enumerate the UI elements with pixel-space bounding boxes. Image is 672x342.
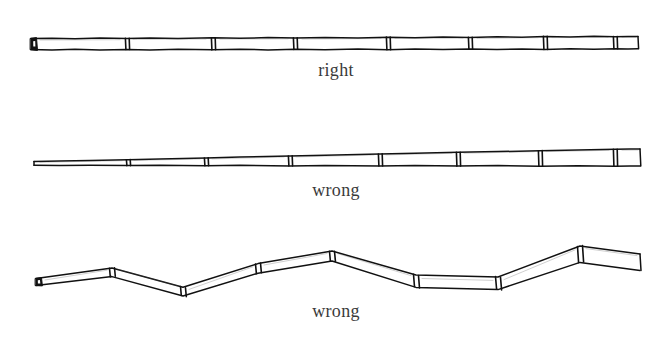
bamboo-pole-figure: right wrong wrong: [0, 0, 672, 342]
pole2-right-end: [640, 149, 641, 166]
caption-wrong-tapered: wrong: [0, 180, 672, 200]
pole2-top-edge: [34, 149, 640, 162]
bamboo-illustration-svg: [0, 0, 672, 342]
pole3-end-cap-inner: [38, 280, 41, 284]
caption-wrong-crooked: wrong: [0, 301, 672, 321]
pole-straight-tapered-drawing: [34, 149, 641, 166]
pole-crooked-drawing: [36, 246, 642, 297]
pole1-right-end: [638, 37, 639, 49]
pole2-bottom-edge: [34, 165, 640, 166]
caption-right: right: [0, 60, 672, 80]
pole-straight-uniform-drawing: [31, 36, 639, 50]
pole1-end-cap-inner: [33, 41, 35, 47]
pole3-bottom-edge: [36, 261, 640, 296]
pole3-right-end: [640, 254, 641, 270]
